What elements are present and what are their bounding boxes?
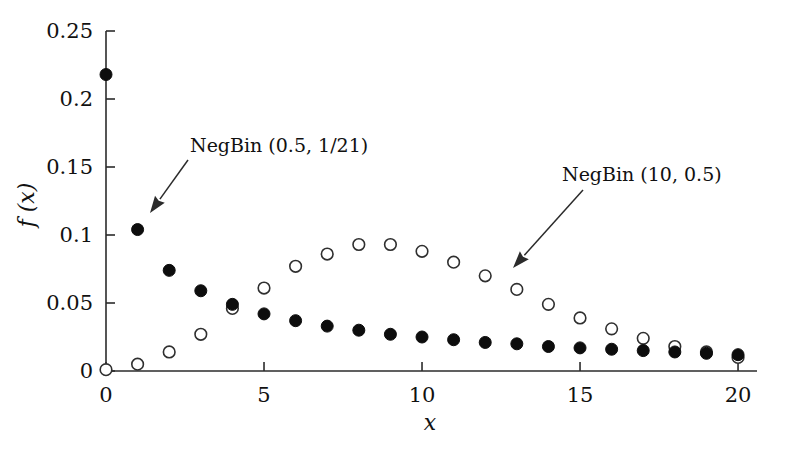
- data-point-s1-x13: [511, 284, 523, 296]
- x-axis-label: x: [424, 410, 437, 435]
- x-tick-label-3: 15: [567, 383, 594, 407]
- data-point-s1-x6: [290, 260, 302, 272]
- annotation-label-1: NegBin (10, 0.5): [562, 163, 722, 185]
- data-point-s1-x12: [479, 270, 491, 282]
- x-tick-label-4: 20: [725, 383, 752, 407]
- data-point-s0-x4: [226, 298, 238, 310]
- data-point-s0-x6: [290, 315, 302, 327]
- data-point-s0-x14: [542, 341, 554, 353]
- series-negbin-0.5-1over21: [100, 69, 744, 361]
- data-point-s0-x9: [384, 328, 396, 340]
- y-tick-label-1: 0.05: [46, 291, 93, 315]
- data-point-s0-x2: [163, 264, 175, 276]
- data-point-s1-x1: [132, 358, 144, 370]
- y-tick-label-2: 0.1: [60, 223, 93, 247]
- data-point-s1-x7: [321, 248, 333, 260]
- annotation-arrow-line-0: [160, 160, 188, 199]
- x-tick-label-1: 5: [257, 383, 270, 407]
- annotation-arrow-line-1: [524, 190, 583, 255]
- x-tick-label-0: 0: [99, 383, 112, 407]
- data-point-s0-x8: [353, 324, 365, 336]
- data-point-s0-x11: [448, 334, 460, 346]
- data-point-s0-x17: [637, 345, 649, 357]
- annotation-label-0: NegBin (0.5, 1/21): [190, 134, 368, 156]
- data-point-s1-x0: [100, 364, 112, 376]
- data-point-s1-x17: [637, 333, 649, 345]
- data-point-s1-x15: [574, 312, 586, 324]
- data-point-s0-x12: [479, 336, 491, 348]
- figure-canvas: 00.050.10.150.20.25 05101520 x f (x) Neg…: [0, 0, 798, 455]
- data-point-s0-x18: [669, 346, 681, 358]
- data-point-s1-x3: [195, 328, 207, 340]
- data-point-s0-x5: [258, 308, 270, 320]
- data-point-s1-x8: [353, 239, 365, 251]
- y-tick-label-3: 0.15: [46, 155, 93, 179]
- data-point-s0-x7: [321, 320, 333, 332]
- data-point-s0-x1: [132, 224, 144, 236]
- y-tick-label-0: 0: [80, 359, 93, 383]
- data-point-s1-x9: [385, 239, 397, 251]
- data-point-s1-x10: [416, 246, 428, 258]
- axes-group: [106, 31, 757, 371]
- data-point-s0-x13: [511, 338, 523, 350]
- annotation-group: NegBin (0.5, 1/21)NegBin (10, 0.5): [150, 134, 722, 268]
- scatter-plot: 00.050.10.150.20.25 05101520 x f (x) Neg…: [0, 0, 798, 455]
- data-point-s0-x15: [574, 342, 586, 354]
- x-tick-label-2: 10: [409, 383, 436, 407]
- data-point-s0-x0: [100, 69, 112, 81]
- y-tick-label-5: 0.25: [46, 19, 93, 43]
- data-point-s0-x3: [195, 285, 207, 297]
- data-point-s1-x14: [543, 299, 555, 311]
- data-point-s1-x11: [448, 256, 460, 268]
- data-point-s0-x19: [700, 347, 712, 359]
- data-point-s1-x2: [163, 346, 175, 358]
- data-point-s1-x5: [258, 282, 270, 294]
- y-tick-label-4: 0.2: [60, 87, 93, 111]
- x-axis-tick-labels: 05101520: [99, 383, 751, 407]
- x-axis-ticks: [106, 362, 738, 371]
- y-axis-tick-labels: 00.050.10.150.20.25: [46, 19, 93, 383]
- y-axis-ticks: [106, 31, 115, 371]
- data-point-s1-x16: [606, 323, 618, 335]
- y-axis-label: f (x): [14, 183, 39, 230]
- annotation-arrow-head-0: [150, 196, 165, 213]
- data-point-s0-x20: [732, 349, 744, 361]
- data-point-s0-x16: [606, 343, 618, 355]
- data-point-s0-x10: [416, 331, 428, 343]
